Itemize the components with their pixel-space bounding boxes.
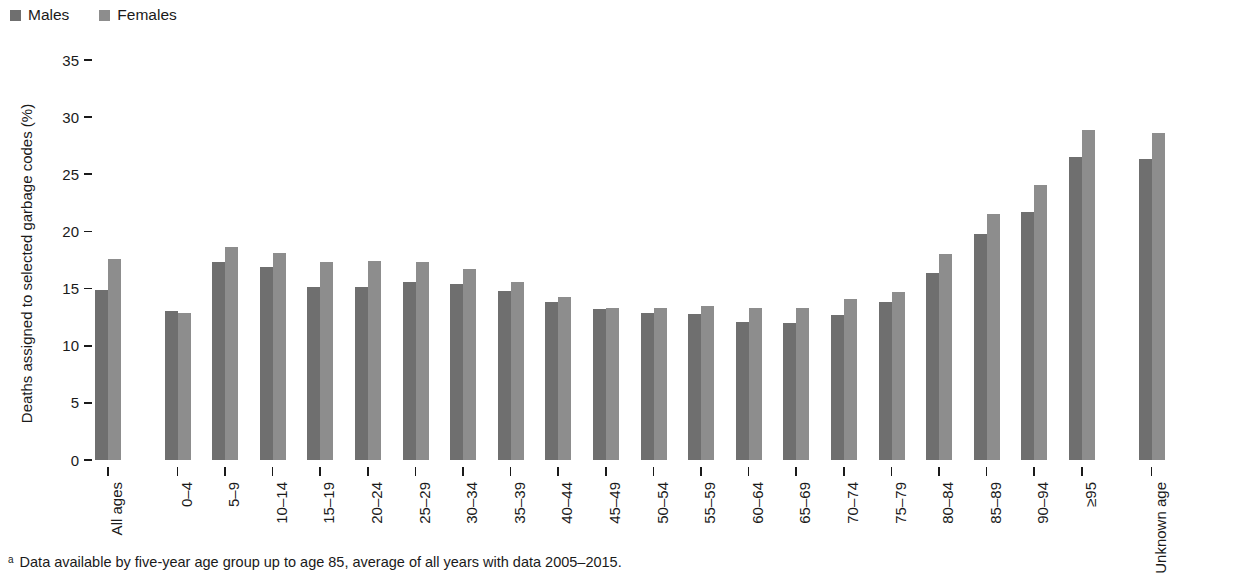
y-axis-title: Deaths assigned to selected garbage code…	[18, 64, 35, 464]
footnote-text: Data available by five-year age group up…	[20, 554, 622, 570]
bar-male	[593, 309, 606, 460]
x-tick-label: 50–54	[654, 482, 671, 524]
bar-female	[654, 308, 667, 460]
x-tick-label: 15–19	[320, 482, 337, 524]
x-tick-label: 10–14	[273, 482, 290, 524]
bar-group	[879, 60, 905, 460]
bar-chart: Deaths assigned to selected garbage code…	[0, 0, 1252, 580]
bar-male	[688, 314, 701, 460]
bar-male	[545, 302, 558, 460]
y-tick-label: 10	[62, 337, 79, 354]
bar-male	[260, 267, 273, 460]
bar-male	[1021, 212, 1034, 460]
bar-group	[783, 60, 809, 460]
x-tick-label: 65–69	[796, 482, 813, 524]
bar-group	[165, 60, 191, 460]
y-tick-label: 25	[62, 166, 79, 183]
bar-male	[926, 273, 939, 460]
bar-male	[1069, 157, 1082, 460]
x-tick-label: 25–29	[416, 482, 433, 524]
x-tick-dash	[107, 467, 109, 476]
bar-male	[641, 313, 654, 460]
bar-female	[749, 308, 762, 460]
x-tick-label: 60–64	[749, 482, 766, 524]
x-tick-dash	[795, 467, 797, 476]
x-tick-label: Unknown age	[1152, 482, 1169, 574]
x-tick-dash	[986, 467, 988, 476]
bar-male	[498, 291, 511, 460]
y-tick-dash	[84, 116, 92, 118]
y-tick-0: 0	[71, 452, 92, 468]
x-tick-dash	[938, 467, 940, 476]
x-tick-label: 30–34	[463, 482, 480, 524]
x-tick-dash	[319, 467, 321, 476]
x-tick-dash	[700, 467, 702, 476]
bar-male	[355, 287, 368, 460]
footnote-marker: a	[8, 554, 14, 565]
x-tick-label: 75–79	[892, 482, 909, 524]
x-tick-dash	[653, 467, 655, 476]
bar-male	[1139, 159, 1152, 460]
bar-group	[498, 60, 524, 460]
y-tick-dash	[84, 231, 92, 233]
x-tick-dash	[1081, 467, 1083, 476]
y-tick-label: 15	[62, 280, 79, 297]
bar-male	[165, 311, 178, 460]
bar-group	[1069, 60, 1095, 460]
y-tick-dash	[84, 345, 92, 347]
bar-female	[108, 259, 121, 460]
bar-group	[450, 60, 476, 460]
x-tick-label: 5–9	[225, 482, 242, 507]
footnote: a Data available by five-year age group …	[8, 554, 622, 570]
bar-group	[403, 60, 429, 460]
x-tick-dash	[224, 467, 226, 476]
x-tick-label: ≥95	[1082, 482, 1099, 507]
x-tick-dash	[1033, 467, 1035, 476]
x-tick-label: 45–49	[606, 482, 623, 524]
bar-female	[1082, 130, 1095, 460]
bar-female	[796, 308, 809, 460]
bar-male	[95, 290, 108, 460]
bar-female	[320, 262, 333, 460]
x-tick-label: 55–59	[701, 482, 718, 524]
bar-group	[355, 60, 381, 460]
bar-male	[974, 234, 987, 460]
bar-group	[1139, 60, 1165, 460]
x-tick-dash	[748, 467, 750, 476]
y-tick-20: 20	[62, 223, 92, 239]
x-tick-label: 20–24	[368, 482, 385, 524]
bar-male	[307, 287, 320, 460]
x-tick-label: 80–84	[939, 482, 956, 524]
x-tick-dash	[557, 467, 559, 476]
bar-female	[987, 214, 1000, 460]
bar-male	[879, 302, 892, 460]
bar-female	[225, 247, 238, 460]
y-tick-25: 25	[62, 166, 92, 182]
y-tick-5: 5	[71, 395, 92, 411]
x-tick-dash	[462, 467, 464, 476]
x-tick-label: 40–44	[558, 482, 575, 524]
x-tick-dash	[367, 467, 369, 476]
bar-female	[178, 313, 191, 460]
bar-group	[688, 60, 714, 460]
y-tick-dash	[84, 459, 92, 461]
bar-female	[416, 262, 429, 460]
bar-group	[260, 60, 286, 460]
bar-male	[783, 323, 796, 460]
bar-group	[545, 60, 571, 460]
y-tick-label: 20	[62, 223, 79, 240]
bar-female	[892, 292, 905, 460]
bar-group	[974, 60, 1000, 460]
y-tick-label: 30	[62, 109, 79, 126]
y-tick-dash	[84, 59, 92, 61]
bar-male	[831, 315, 844, 460]
bar-female	[368, 261, 381, 460]
x-tick-dash	[510, 467, 512, 476]
y-tick-dash	[84, 402, 92, 404]
bar-female	[1152, 133, 1165, 460]
bar-male	[212, 262, 225, 460]
x-tick-dash	[415, 467, 417, 476]
bar-female	[701, 306, 714, 460]
bar-female	[558, 297, 571, 460]
y-tick-15: 15	[62, 281, 92, 297]
